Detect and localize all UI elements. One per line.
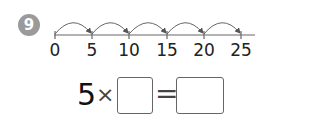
tick-label-10: 10: [118, 40, 140, 60]
tick-label-15: 15: [156, 40, 178, 60]
jump-arcs: [55, 23, 240, 34]
equals-sign: =: [155, 78, 178, 110]
answer-box-product[interactable]: [176, 77, 224, 114]
answer-box-multiplier[interactable]: [117, 77, 153, 114]
tick-label-5: 5: [87, 40, 98, 60]
multiplicand: 5: [77, 76, 96, 114]
tick-label-0: 0: [50, 40, 61, 60]
times-sign: ×: [96, 80, 114, 110]
tick-label-20: 20: [193, 40, 215, 60]
tick-label-25: 25: [230, 40, 252, 60]
